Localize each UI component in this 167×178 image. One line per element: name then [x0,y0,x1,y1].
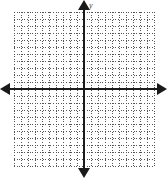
y-axis-down-arrow-icon [78,168,90,178]
y-axis-label: y [89,2,93,10]
x-axis-right-arrow-icon [157,83,167,95]
x-axis-left-arrow-icon [0,83,10,95]
y-axis-line [83,5,85,173]
coordinate-plane: y [0,0,167,178]
